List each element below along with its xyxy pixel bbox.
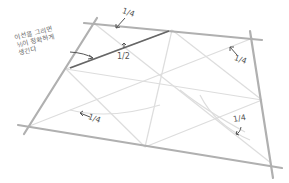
guide-lines xyxy=(27,24,271,163)
label-half: 1/2 xyxy=(117,52,130,61)
